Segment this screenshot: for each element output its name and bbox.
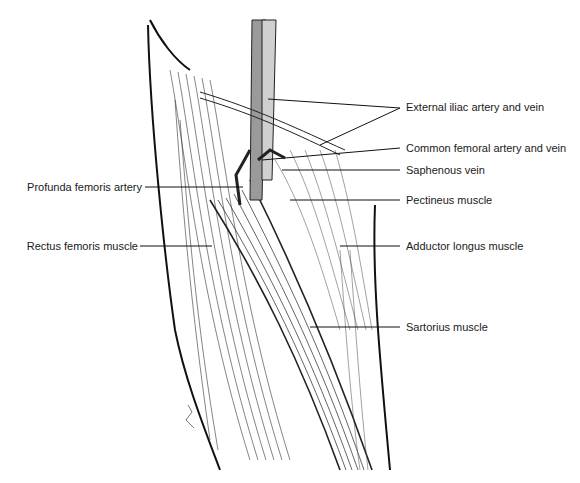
artist-signature: [186, 405, 194, 428]
label-profunda-femoris: Profunda femoris artery: [27, 181, 142, 194]
pectineus-adductor-muscles: [275, 150, 372, 470]
label-external-iliac: External iliac artery and vein: [406, 101, 544, 114]
label-common-femoral: Common femoral artery and vein: [406, 142, 566, 155]
label-adductor-longus: Adductor longus muscle: [406, 240, 523, 253]
label-sartorius: Sartorius muscle: [406, 321, 488, 334]
label-rectus-femoris: Rectus femoris muscle: [27, 240, 138, 253]
label-saphenous-vein: Saphenous vein: [406, 164, 485, 177]
label-pectineus: Pectineus muscle: [406, 194, 492, 207]
